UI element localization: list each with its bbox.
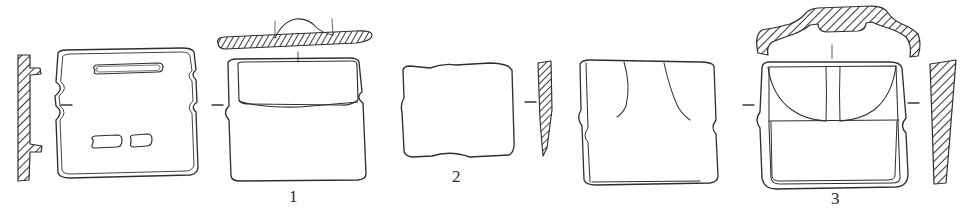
figure-2-front-elevation	[401, 63, 514, 157]
figure-label-3: 3	[831, 190, 840, 207]
figure-1-section-profile-left	[18, 55, 42, 181]
figure-label-1: 1	[289, 188, 298, 205]
figure-1-front-elevation	[226, 58, 367, 181]
figure-label-2: 2	[452, 168, 461, 185]
figure-3-rim-profile-top	[757, 6, 920, 58]
figure-1-plan-view	[55, 48, 198, 178]
figure-1-rim-profile-top	[218, 19, 372, 62]
illustration-plate: 1 2 3	[0, 0, 966, 224]
plate-drawing-canvas	[0, 0, 966, 224]
figure-3-side-elevation	[579, 60, 718, 185]
figure-2-section-profile-right	[538, 61, 552, 156]
figure-3-front-elevation	[757, 62, 908, 189]
figure-3-section-profile-right	[930, 60, 956, 184]
